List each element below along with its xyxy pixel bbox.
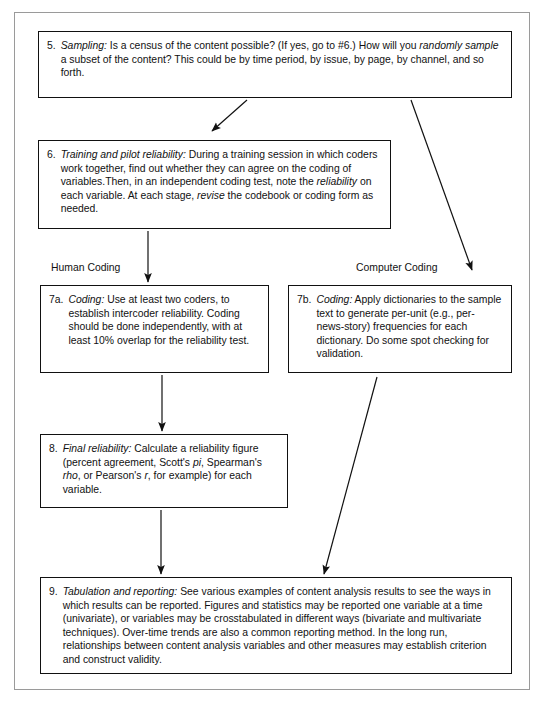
node-step8-text: Final reliability: Calculate a reliabili… [63,442,278,496]
node-step7a-lead: Coding: [68,294,104,305]
node-step7b-lead: Coding: [316,294,352,305]
node-step5-text: Sampling: Is a census of the content pos… [61,39,502,80]
node-step5-number: 5. [47,39,61,53]
node-step8-body-3: , or Pearson's [78,470,145,481]
node-step7b: 7b. Coding: Apply dictionaries to the sa… [288,285,512,373]
node-step9-body-1: See various examples of content analysis… [63,586,491,665]
node-step8-lead2: pi [193,457,201,468]
node-step5-body-2: a subset of the content? This could be b… [61,54,484,79]
node-step6-lead: Training and pilot reliability: [61,149,186,160]
node-step8-body-2: , Spearman's [201,457,262,468]
node-step8-lead3: rho [63,470,78,481]
node-step8-body: 8. Final reliability: Calculate a reliab… [49,442,278,496]
node-step7a-number: 7a. [49,293,68,307]
node-step7b-body: 7b. Coding: Apply dictionaries to the sa… [297,293,502,361]
node-step5-lead: Sampling: [61,40,107,51]
node-step8-lead: Final reliability: [63,443,132,454]
node-step7a: 7a. Coding: Use at least two coders, to … [40,285,269,373]
node-step5-lead2: randomly sample [419,40,498,51]
node-step9-lead: Tabulation and reporting: [63,586,178,597]
node-step8-number: 8. [49,442,63,456]
node-step6: 6. Training and pilot reliability: Durin… [38,140,391,229]
caption-human-coding: Human Coding [51,261,120,274]
node-step7b-number: 7b. [297,293,316,307]
node-step6-body: 6. Training and pilot reliability: Durin… [47,148,381,216]
flowchart-figure: 5. Sampling: Is a census of the content … [0,0,544,702]
node-step5-body: 5. Sampling: Is a census of the content … [47,39,502,80]
node-step5-body-1: Is a census of the content possible? (If… [107,40,419,51]
node-step9: 9. Tabulation and reporting: See various… [40,577,512,674]
node-step5: 5. Sampling: Is a census of the content … [38,31,512,98]
node-step6-text: Training and pilot reliability: During a… [61,148,381,216]
node-step7a-text: Coding: Use at least two coders, to esta… [68,293,259,347]
node-step9-text: Tabulation and reporting: See various ex… [63,585,502,667]
caption-computer-coding: Computer Coding [356,261,437,274]
node-step7a-body: 7a. Coding: Use at least two coders, to … [49,293,259,347]
node-step9-number: 9. [49,585,63,599]
node-step6-lead2: reliability [317,176,357,187]
node-step6-number: 6. [47,148,61,162]
node-step7b-text: Coding: Apply dictionaries to the sample… [316,293,502,361]
node-step8: 8. Final reliability: Calculate a reliab… [40,434,288,508]
node-step6-lead3: revise [197,190,225,201]
node-step9-body: 9. Tabulation and reporting: See various… [49,585,502,667]
